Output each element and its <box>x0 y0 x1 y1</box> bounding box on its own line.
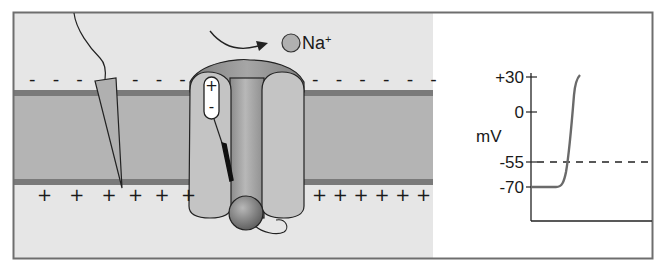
inside-charges-right: + + + + + + <box>312 186 431 204</box>
sodium-ion-label: Na+ <box>302 34 331 52</box>
outside-charges-middle: - - - <box>132 70 186 88</box>
tick-label-minus55: -55 <box>464 154 524 171</box>
sensor-negative-sign: - <box>205 98 218 116</box>
tick-label-plus30: +30 <box>464 69 524 86</box>
inside-charges-left: + + + <box>37 186 117 204</box>
y-axis-unit-label: mV <box>476 128 502 145</box>
tick-label-zero: 0 <box>464 104 524 121</box>
outside-charges-right: - - - - - - <box>312 70 437 88</box>
inactivation-ball <box>229 196 263 230</box>
tick-label-minus70: -70 <box>464 179 524 196</box>
figure: - - - - - - - - - - - - + + + + + + + + … <box>0 0 662 275</box>
inside-charges-middle: + + + <box>128 186 196 204</box>
outside-charges-left: - - - <box>29 70 83 88</box>
sodium-ion-icon <box>282 34 300 52</box>
sensor-positive-sign: + <box>205 77 218 95</box>
